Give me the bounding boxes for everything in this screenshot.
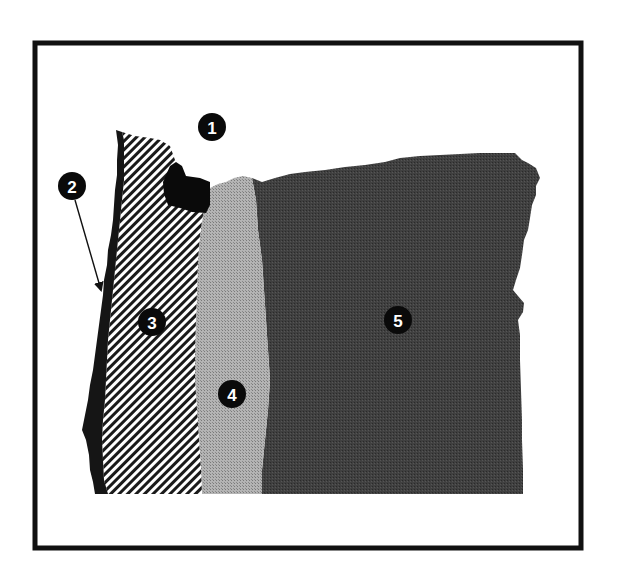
- pointer-arrow: [75, 200, 101, 290]
- marker-4: 4: [218, 380, 246, 408]
- marker-2-label: 2: [67, 178, 76, 197]
- oregon-map: 1 2 3 4 5: [0, 0, 620, 585]
- marker-5-label: 5: [393, 312, 402, 331]
- marker-3-label: 3: [147, 314, 156, 333]
- marker-1: 1: [198, 113, 226, 141]
- marker-1-label: 1: [207, 119, 216, 138]
- marker-5: 5: [384, 306, 412, 334]
- marker-2: 2: [58, 172, 86, 200]
- marker-3: 3: [138, 308, 166, 336]
- marker-4-label: 4: [227, 386, 237, 405]
- region-1: [163, 162, 210, 213]
